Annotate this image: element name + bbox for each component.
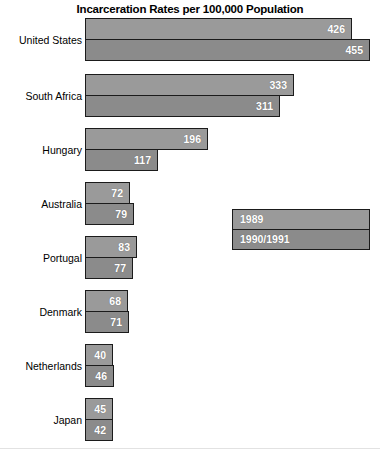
bar-japan-1989: 45	[85, 398, 113, 420]
bar-value-label: 79	[115, 209, 133, 220]
category-label-south-africa: South Africa	[0, 90, 82, 102]
category-label-australia: Australia	[0, 198, 82, 210]
bar-netherlands-1989: 40	[85, 344, 113, 366]
bar-value-label: 72	[111, 188, 129, 199]
category-label-netherlands: Netherlands	[0, 360, 82, 372]
bar-value-label: 196	[183, 134, 207, 145]
bar-japan-1990-1991: 42	[85, 419, 113, 441]
bar-value-label: 77	[114, 263, 132, 274]
bar-group: Hungary196117	[0, 128, 380, 172]
bar-value-label: 426	[327, 24, 351, 35]
bar-united-states-1989: 426	[85, 18, 352, 40]
incarceration-rates-chart: Incarceration Rates per 100,000 Populati…	[0, 0, 380, 449]
bar-group: South Africa333311	[0, 74, 380, 118]
bar-south-africa-1990-1991: 311	[85, 95, 280, 117]
bar-denmark-1990-1991: 71	[85, 311, 129, 333]
bar-australia-1990-1991: 79	[85, 203, 134, 225]
bar-australia-1989: 72	[85, 182, 130, 204]
chart-legend: 1989 1990/1991	[232, 209, 370, 250]
bar-hungary-1990-1991: 117	[85, 149, 158, 171]
bar-denmark-1989: 68	[85, 290, 128, 312]
bar-value-label: 117	[134, 155, 157, 166]
bar-value-label: 46	[95, 371, 113, 382]
bar-value-label: 333	[269, 80, 293, 91]
page-title: Incarceration Rates per 100,000 Populati…	[0, 3, 380, 15]
legend-item-1990-1991: 1990/1991	[233, 230, 369, 249]
bar-south-africa-1989: 333	[85, 74, 294, 96]
bar-group: Denmark6871	[0, 290, 380, 334]
bar-value-label: 45	[94, 404, 112, 415]
bar-value-label: 40	[94, 350, 112, 361]
bar-united-states-1990-1991: 455	[85, 39, 370, 61]
bar-value-label: 83	[118, 242, 136, 253]
bar-portugal-1990-1991: 77	[85, 257, 133, 279]
legend-item-1989: 1989	[233, 210, 369, 230]
legend-label-1990-1991: 1990/1991	[233, 234, 290, 245]
category-label-denmark: Denmark	[0, 306, 82, 318]
bar-portugal-1989: 83	[85, 236, 137, 258]
bar-value-label: 68	[109, 296, 127, 307]
category-label-united-states: United States	[0, 34, 82, 46]
category-label-hungary: Hungary	[0, 144, 82, 156]
category-label-portugal: Portugal	[0, 252, 82, 264]
bar-group: Netherlands4046	[0, 344, 380, 388]
bar-group: Japan4542	[0, 398, 380, 442]
bar-group: United States426455	[0, 18, 380, 62]
bar-value-label: 311	[256, 101, 279, 112]
bar-netherlands-1990-1991: 46	[85, 365, 114, 387]
bar-value-label: 42	[94, 425, 112, 436]
bar-value-label: 455	[345, 45, 369, 56]
legend-label-1989: 1989	[233, 214, 263, 225]
bar-hungary-1989: 196	[85, 128, 208, 150]
bar-value-label: 71	[110, 317, 128, 328]
category-label-japan: Japan	[0, 414, 82, 426]
